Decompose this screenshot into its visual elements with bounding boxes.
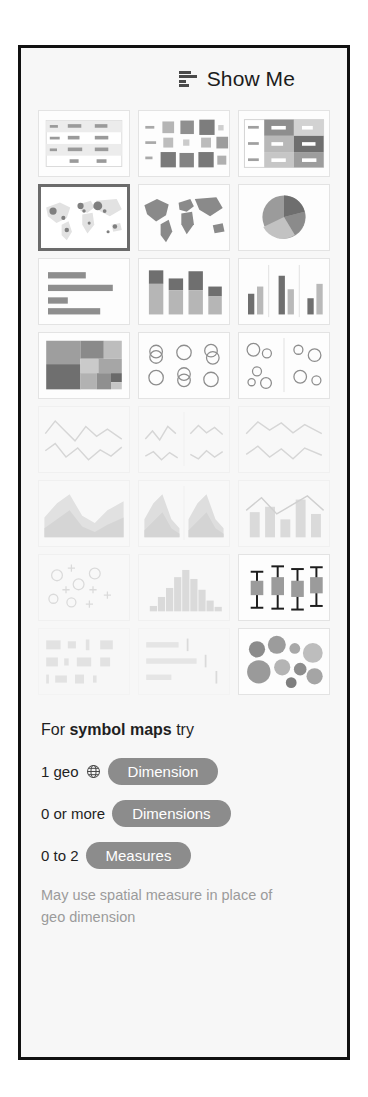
- chart-type-stacked-bars[interactable]: [138, 258, 230, 325]
- chart-type-box-and-whisker[interactable]: [238, 554, 330, 621]
- chart-type-dual-combination[interactable]: [238, 480, 330, 547]
- chart-type-lines-discrete[interactable]: [138, 406, 230, 473]
- page-title: Show Me: [207, 67, 295, 91]
- requirement-pill-dimension: Dimension: [108, 758, 219, 785]
- chart-type-histogram[interactable]: [138, 554, 230, 621]
- chart-type-side-by-side-circles[interactable]: [238, 332, 330, 399]
- requirement-label-measures: 0 to 2: [41, 847, 79, 864]
- advice-headline-emphasis: symbol maps: [69, 721, 171, 738]
- chart-type-area-continuous[interactable]: [38, 480, 130, 547]
- chart-type-text-table[interactable]: [38, 110, 130, 177]
- chart-type-highlight-table[interactable]: [238, 110, 330, 177]
- advice-headline: For symbol maps try: [41, 721, 327, 739]
- chart-type-circle-views[interactable]: [138, 332, 230, 399]
- advice-headline-prefix: For: [41, 721, 69, 738]
- chart-type-scatter-plot[interactable]: [38, 554, 130, 621]
- requirement-label-dimensions: 0 or more: [41, 805, 105, 822]
- chart-type-gantt[interactable]: [38, 628, 130, 695]
- chart-type-dual-lines[interactable]: [238, 406, 330, 473]
- advice-headline-suffix: try: [172, 721, 194, 738]
- requirement-label-geo: 1 geo: [41, 763, 79, 780]
- panel-header: Show Me: [21, 48, 347, 110]
- chart-type-symbol-map[interactable]: [38, 184, 130, 251]
- requirement-pill-measures: Measures: [86, 842, 192, 869]
- chart-type-area-discrete[interactable]: [138, 480, 230, 547]
- advice-section: For symbol maps try 1 geo Dimension 0 or…: [21, 695, 347, 1057]
- chart-type-side-by-side-bars[interactable]: [238, 258, 330, 325]
- requirement-row-geo: 1 geo Dimension: [41, 758, 327, 785]
- globe-icon: [86, 764, 101, 779]
- requirement-row-dimensions: 0 or more Dimensions: [41, 800, 327, 827]
- chart-type-heat-map[interactable]: [138, 110, 230, 177]
- chart-type-grid: [21, 110, 347, 695]
- chart-type-pie-chart[interactable]: [238, 184, 330, 251]
- chart-type-bullet-graph[interactable]: [138, 628, 230, 695]
- advice-note: May use spatial measure in place of geo …: [41, 884, 281, 929]
- chart-type-lines-continuous[interactable]: [38, 406, 130, 473]
- show-me-panel: Show Me: [18, 45, 350, 1060]
- chart-type-horizontal-bars[interactable]: [38, 258, 130, 325]
- chart-type-treemap[interactable]: [38, 332, 130, 399]
- show-me-bars-icon: [179, 71, 197, 88]
- chart-type-filled-map[interactable]: [138, 184, 230, 251]
- chart-type-packed-bubbles[interactable]: [238, 628, 330, 695]
- requirement-row-measures: 0 to 2 Measures: [41, 842, 327, 869]
- requirement-pill-dimensions: Dimensions: [112, 800, 230, 827]
